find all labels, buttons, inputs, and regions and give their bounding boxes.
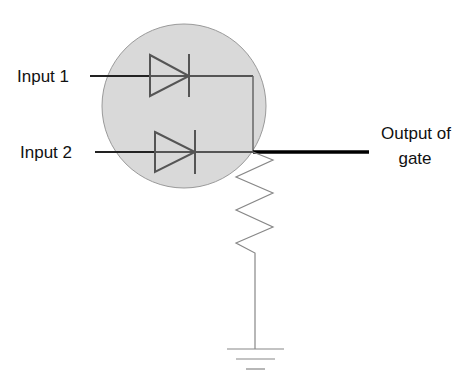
gate-enclosure-circle	[102, 24, 266, 188]
ground-icon	[227, 349, 284, 369]
diode-or-gate-diagram: Input 1 Input 2 Output of gate	[0, 0, 474, 386]
input1-label: Input 1	[17, 67, 69, 86]
input2-label: Input 2	[20, 143, 72, 162]
output-label-line1: Output of	[381, 124, 451, 143]
output-label-line2: gate	[398, 149, 431, 168]
pulldown-resistor-icon	[236, 152, 273, 349]
